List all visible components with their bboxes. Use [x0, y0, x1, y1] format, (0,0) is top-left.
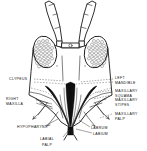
label-maxillary-squama: MAXILLARY SQUAMA: [115, 89, 138, 98]
label-hypopharynx-text: HYPOPHARYNX: [17, 125, 48, 129]
label-maxillary-stipes-line1: MAXILLARY: [115, 98, 138, 102]
label-right-maxilla: RIGHT MAXILLA: [6, 97, 24, 106]
label-labium-text: LABIUM: [93, 132, 108, 136]
label-left-mandible-line2: MANDIBLE: [115, 81, 136, 85]
left-maxillary-palp: [33, 103, 47, 119]
right-maxillary-palp: [95, 103, 109, 119]
label-right-maxilla-line2: MAXILLA: [6, 102, 24, 106]
label-labial-palp-line1: LABIAL: [40, 137, 54, 141]
label-labial-palp: LABIAL PALP: [40, 137, 54, 147]
figure-canvas: CLYPEUS RIGHT MAXILLA LEFT MANDIBLE MAXI…: [0, 0, 147, 151]
label-maxillary-squama-line2: SQUAMA: [115, 94, 133, 98]
label-labrum: LABRUM: [91, 126, 108, 130]
label-hypopharynx: HYPOPHARYNX: [17, 125, 48, 129]
label-maxillary-stipes-line2: STIPES: [115, 103, 130, 107]
label-maxillary-squama-line1: MAXILLARY: [115, 89, 138, 93]
label-maxillary-palp-line1: MAXILLARY: [115, 112, 138, 116]
labial-palp-right: [84, 112, 95, 126]
label-labrum-text: LABRUM: [91, 126, 108, 130]
label-right-maxilla-line1: RIGHT: [6, 97, 19, 101]
vertex-plate: [62, 43, 79, 48]
label-maxillary-stipes: MAXILLARY STIPES: [115, 98, 138, 107]
label-labial-palp-line2: PALP: [42, 143, 52, 147]
label-maxillary-palp-line2: PALP: [115, 117, 125, 121]
label-left-mandible: LEFT MANDIBLE: [115, 76, 136, 85]
label-clypeus: CLYPEUS: [9, 77, 28, 81]
label-left-mandible-line1: LEFT: [115, 76, 125, 80]
label-clypeus-text: CLYPEUS: [9, 77, 28, 81]
insect-mouthparts-figure: CLYPEUS RIGHT MAXILLA LEFT MANDIBLE MAXI…: [0, 0, 147, 151]
label-maxillary-palp: MAXILLARY PALP: [115, 112, 138, 121]
label-labium: LABIUM: [93, 132, 108, 136]
